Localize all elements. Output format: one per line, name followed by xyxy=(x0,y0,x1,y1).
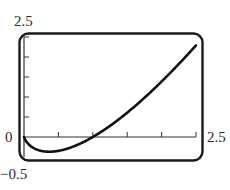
x-min-label: 0 xyxy=(5,130,13,145)
y-max-label: 2.5 xyxy=(14,14,33,29)
y-min-label: −0.5 xyxy=(0,167,27,182)
plot-area xyxy=(0,0,230,190)
function-curve xyxy=(24,45,196,151)
viewing-window-frame xyxy=(20,34,203,161)
y-ticks xyxy=(24,37,29,117)
x-max-label: 2.5 xyxy=(207,130,226,145)
x-ticks xyxy=(58,132,196,137)
